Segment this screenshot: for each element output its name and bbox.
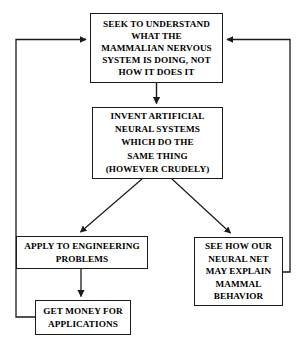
- node-text-line: WHICH DO THE: [121, 136, 194, 149]
- node-text-line: APPLICATIONS: [48, 318, 118, 331]
- edge-invent-to-see: [172, 179, 231, 233]
- node-text-line: MAMMALIAN NERVOUS: [101, 42, 212, 54]
- node-text-line: (HOWEVER CRUDELY): [106, 163, 210, 176]
- node-text-line: MAMMAL: [215, 278, 261, 290]
- node-text-line: SYSTEM IS DOING, NOT: [102, 54, 211, 66]
- node-text-line: WHAT THE: [131, 30, 182, 42]
- node-text-line: GET MONEY FOR: [43, 305, 122, 318]
- get-money-for-applications-box[interactable]: GET MONEY FOR APPLICATIONS: [35, 300, 131, 335]
- node-text-line: INVENT ARTIFICIAL: [111, 110, 205, 123]
- node-text-line: BEHAVIOR: [214, 290, 264, 302]
- flowchart-canvas: SEEK TO UNDERSTAND WHAT THE MAMMALIAN NE…: [0, 0, 302, 350]
- node-text-line: SEE HOW OUR: [205, 240, 272, 252]
- node-text-line: HOW IT DOES IT: [119, 66, 195, 78]
- invent-artificial-neural-systems-box[interactable]: INVENT ARTIFICIAL NEURAL SYSTEMS WHICH D…: [92, 107, 223, 179]
- node-text-line: PROBLEMS: [56, 253, 108, 266]
- node-text-line: MAY EXPLAIN: [206, 265, 272, 277]
- node-text-line: SEEK TO UNDERSTAND: [103, 18, 210, 30]
- node-text-line: SAME THING: [127, 150, 187, 163]
- apply-to-engineering-problems-box[interactable]: APPLY TO ENGINEERING PROBLEMS: [16, 236, 148, 269]
- node-text-line: APPLY TO ENGINEERING: [24, 240, 139, 253]
- edge-money-to-seek-feedback: [16, 40, 86, 318]
- edge-invent-to-apply: [81, 179, 143, 232]
- node-text-line: NEURAL SYSTEMS: [115, 123, 200, 136]
- seek-to-understand-box[interactable]: SEEK TO UNDERSTAND WHAT THE MAMMALIAN NE…: [90, 13, 223, 83]
- see-how-our-neural-net-box[interactable]: SEE HOW OUR NEURAL NET MAY EXPLAIN MAMMA…: [194, 237, 283, 306]
- node-text-line: NEURAL NET: [208, 253, 268, 265]
